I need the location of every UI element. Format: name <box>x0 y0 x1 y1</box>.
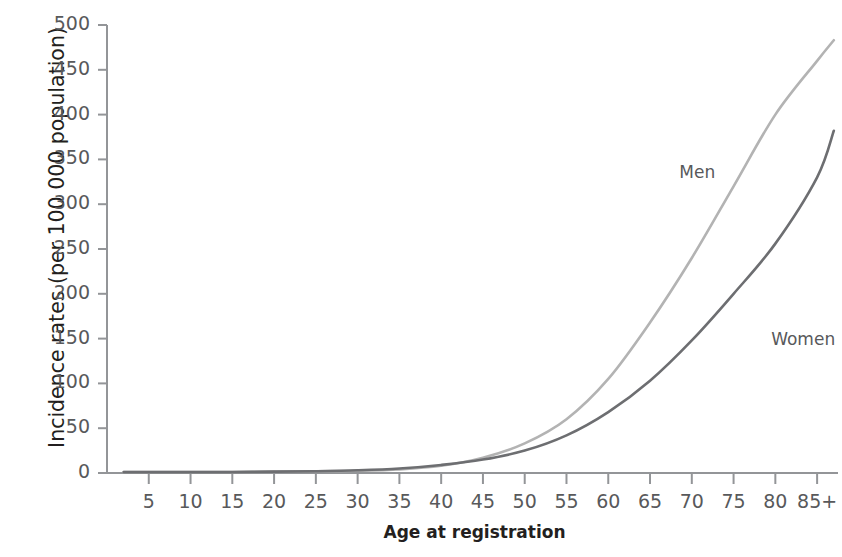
y-axis-ticks <box>98 25 107 473</box>
y-tick-label: 500 <box>28 12 90 34</box>
y-tick-label: 350 <box>28 146 90 168</box>
chart-plot-area <box>0 0 842 557</box>
y-tick-label: 200 <box>28 281 90 303</box>
y-tick-label: 50 <box>28 415 90 437</box>
series-line-women <box>124 131 834 472</box>
y-tick-label: 100 <box>28 370 90 392</box>
x-tick-label: 85+ <box>787 490 842 512</box>
series-label-men: Men <box>679 162 715 182</box>
x-axis-title: Age at registration <box>107 522 842 542</box>
series-label-women: Women <box>771 329 835 349</box>
y-tick-label: 450 <box>28 57 90 79</box>
y-tick-label: 250 <box>28 236 90 258</box>
chart-figure: Incidence rates (per 100 000 population)… <box>0 0 842 557</box>
x-axis-ticks <box>149 473 817 484</box>
series-line-men <box>124 40 834 472</box>
y-tick-label: 150 <box>28 326 90 348</box>
chart-axes <box>107 25 838 473</box>
y-tick-label: 0 <box>28 460 90 482</box>
y-tick-label: 400 <box>28 102 90 124</box>
chart-series-lines <box>124 40 834 472</box>
y-tick-label: 300 <box>28 191 90 213</box>
